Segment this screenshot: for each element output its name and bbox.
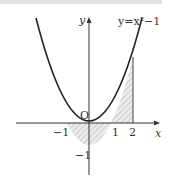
- x-axis-arrow: [154, 121, 160, 126]
- tick-label-1-x: 1: [112, 127, 119, 138]
- x-axis-label: x: [155, 128, 161, 139]
- shaded-region-upper: [111, 57, 133, 123]
- origin-label: O: [80, 110, 89, 121]
- y-axis-label: y: [79, 15, 85, 26]
- equation-label: y=x²−1: [118, 16, 160, 27]
- tick-label-neg1-y: −1: [75, 150, 91, 161]
- tick-label-2-x: 2: [129, 127, 136, 138]
- tick-label-neg1-x: −1: [53, 127, 69, 138]
- y-axis-arrow: [87, 17, 92, 23]
